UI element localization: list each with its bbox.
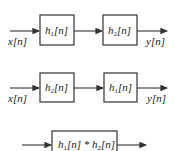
cascade-h2-h1: x[n] h2[n] h1[n] y[n] [7, 73, 167, 104]
lti-cascade-diagrams: x[n] h1[n] h2[n] y[n] x[n] h2[n] h1[n] y… [0, 0, 175, 151]
output-label: y[n] [145, 35, 165, 47]
block-conv-label: h1[n] * h2[n] [58, 138, 115, 151]
block-h2-label: h2[n] [108, 24, 131, 38]
output-label: y[n] [146, 92, 166, 104]
block-h2-label: h2[n] [45, 81, 68, 95]
block-h1-label: h1[n] [45, 24, 68, 38]
block-h1-label: h1[n] [109, 81, 132, 95]
equivalent-convolution-system: h1[n] * h2[n] [22, 131, 146, 151]
input-label: x[n] [7, 35, 27, 47]
cascade-h1-h2: x[n] h1[n] h2[n] y[n] [7, 15, 167, 47]
input-label: x[n] [7, 92, 27, 104]
